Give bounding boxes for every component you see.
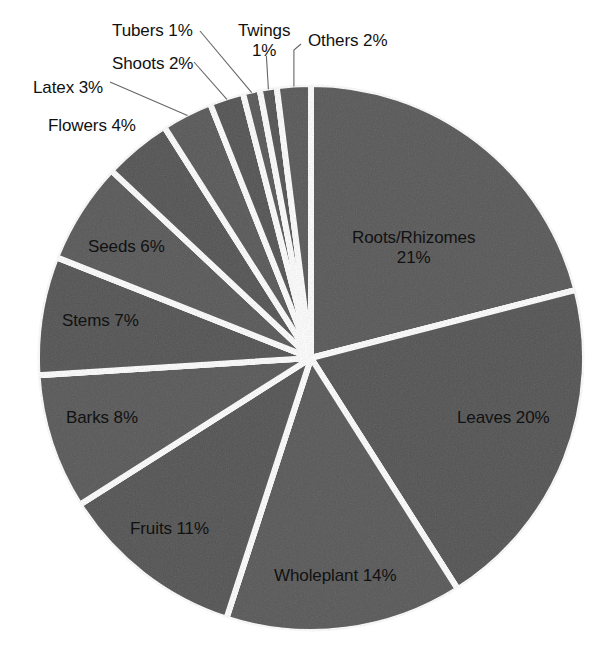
- pie-label-flowers: Flowers 4%: [48, 116, 136, 136]
- pie-label-stems: Stems 7%: [62, 311, 139, 331]
- pie-label-others: Others 2%: [308, 31, 387, 51]
- pie-label-tubers: Tubers 1%: [112, 21, 193, 41]
- pie-label-roots-rhizomes: Roots/Rhizomes21%: [352, 228, 475, 268]
- pie-label-latex: Latex 3%: [33, 78, 103, 98]
- pie-label-leaves: Leaves 20%: [457, 408, 550, 428]
- pie-label-twings-line1: Twings: [238, 21, 290, 41]
- pie-label-roots-rhizomes-line1: Roots/Rhizomes: [352, 228, 475, 248]
- pie-slices-group: [34, 81, 588, 635]
- pie-label-shoots: Shoots 2%: [112, 54, 193, 74]
- pie-label-roots-rhizomes-line2: 21%: [352, 248, 475, 268]
- pie-label-twings-line2: 1%: [238, 41, 290, 61]
- pie-chart: Roots/Rhizomes21%Leaves 20%Wholeplant 14…: [0, 0, 609, 662]
- pie-label-seeds: Seeds 6%: [88, 237, 165, 257]
- pie-chart-canvas: [0, 0, 609, 662]
- pie-label-wholeplant: Wholeplant 14%: [274, 566, 396, 586]
- pie-label-fruits: Fruits 11%: [130, 519, 209, 539]
- pie-label-twings: Twings1%: [238, 21, 290, 61]
- leader-line-shoots: [194, 62, 227, 99]
- leader-line-latex: [110, 82, 188, 116]
- pie-label-barks: Barks 8%: [66, 408, 138, 428]
